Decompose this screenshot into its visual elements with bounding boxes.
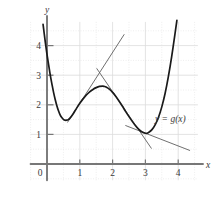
y-tick-label: 2	[36, 100, 41, 110]
y-tick-label: 3	[36, 71, 41, 81]
y-axis-label: y	[44, 5, 50, 15]
x-axis-label: x	[205, 160, 211, 170]
plot-canvas: 012341234 x y y = g(x)	[0, 0, 221, 205]
curve-equation-label: y = g(x)	[154, 114, 186, 125]
x-tick-label: 2	[110, 168, 115, 178]
tangent-lines-layer	[68, 35, 190, 151]
x-tick-label: 3	[143, 168, 148, 178]
x-tick-label: 4	[176, 168, 181, 178]
x-tick-label: 0	[38, 168, 43, 178]
y-tick-label: 4	[36, 41, 41, 51]
y-tick-label: 1	[36, 130, 41, 140]
graph-figure: 012341234 x y y = g(x)	[0, 0, 221, 205]
x-tick-label: 1	[77, 168, 82, 178]
tangent-at-x3	[126, 126, 190, 151]
